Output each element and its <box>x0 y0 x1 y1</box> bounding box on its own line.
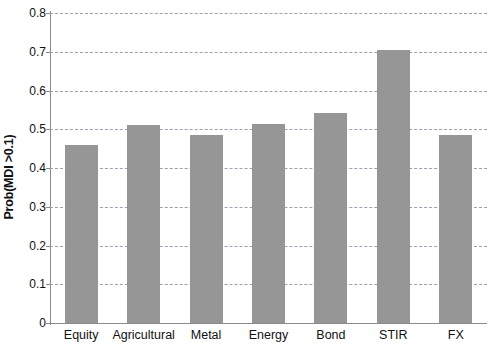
y-axis-tick-mark <box>46 284 50 285</box>
x-axis-tick-label: Equity <box>64 328 99 342</box>
gridline-y <box>50 13 487 14</box>
y-axis-tick-mark <box>46 129 50 130</box>
x-axis-tick-labels: EquityAgriculturalMetalEnergyBondSTIRFX <box>50 326 487 354</box>
bar-energy <box>252 124 285 323</box>
x-axis-tick-label: Bond <box>316 328 345 342</box>
x-axis-tick-label: Metal <box>191 328 222 342</box>
y-axis-tick-mark <box>46 207 50 208</box>
bar-metal <box>190 135 223 323</box>
y-axis-tick-label: 0.1 <box>2 277 46 291</box>
y-axis-tick-label: 0.4 <box>2 161 46 175</box>
bar-bond <box>314 113 347 323</box>
y-axis-tick-label: 0.5 <box>2 122 46 136</box>
x-axis-line <box>50 323 487 324</box>
x-axis-tick-label: FX <box>448 328 464 342</box>
bar-stir <box>377 50 410 323</box>
y-axis-tick-mark <box>46 323 50 324</box>
x-axis-tick-label: Agricultural <box>112 328 175 342</box>
bar-fx <box>439 135 472 323</box>
y-axis-tick-labels: 00.10.20.30.40.50.60.70.8 <box>0 0 46 354</box>
bar-agricultural <box>127 125 160 323</box>
y-axis-tick-label: 0.8 <box>2 6 46 20</box>
y-axis-tick-mark <box>46 168 50 169</box>
y-axis-tick-label: 0 <box>2 316 46 330</box>
y-axis-tick-mark <box>46 246 50 247</box>
y-axis-tick-mark <box>46 91 50 92</box>
x-axis-tick-label: Energy <box>249 328 289 342</box>
y-axis-tick-mark <box>46 13 50 14</box>
gridline-y <box>50 52 487 53</box>
y-axis-tick-label: 0.3 <box>2 200 46 214</box>
x-axis-tick-label: STIR <box>379 328 407 342</box>
y-axis-tick-mark <box>46 52 50 53</box>
bar-chart-figure: Prob(MDI >0.1) 00.10.20.30.40.50.60.70.8… <box>0 0 499 354</box>
plot-area <box>50 13 487 323</box>
gridline-y <box>50 91 487 92</box>
bar-equity <box>65 145 98 323</box>
y-axis-tick-label: 0.6 <box>2 84 46 98</box>
y-axis-tick-label: 0.7 <box>2 45 46 59</box>
y-axis-tick-label: 0.2 <box>2 239 46 253</box>
